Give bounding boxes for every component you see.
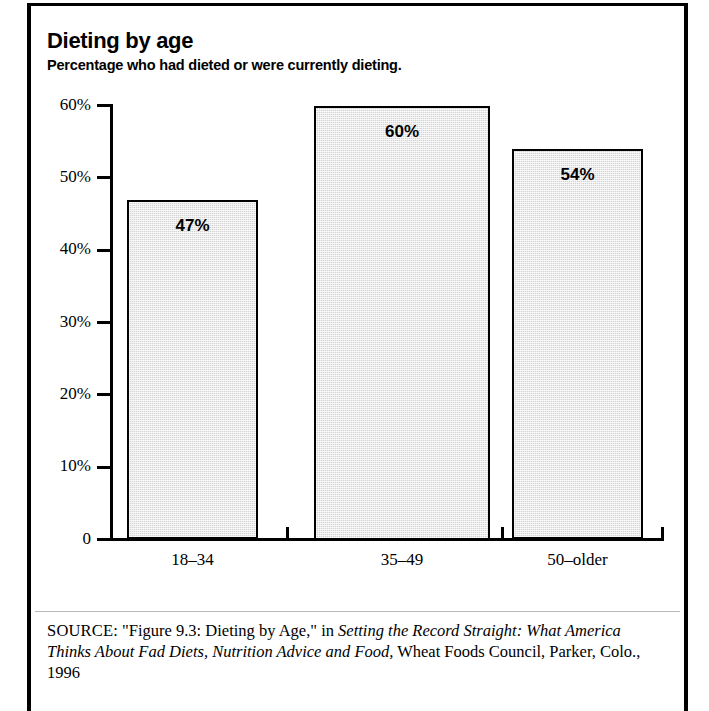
bar-value-label: 54% bbox=[512, 165, 643, 185]
source-figure-title: "Figure 9.3: Dieting by Age," bbox=[122, 621, 317, 640]
bar-value-label: 60% bbox=[314, 122, 490, 142]
y-axis-tick bbox=[97, 176, 113, 179]
y-axis-tick bbox=[97, 249, 113, 252]
y-axis-tick bbox=[97, 466, 113, 469]
y-axis-tick-label-text: 10% bbox=[33, 456, 91, 476]
plot-area: 010%20%30%40%50%60% 47%60%54% 18–3435–49… bbox=[0, 0, 709, 711]
y-axis-tick-label-text: 20% bbox=[33, 384, 91, 404]
y-axis-tick bbox=[97, 104, 113, 107]
y-axis-tick bbox=[97, 393, 113, 396]
y-axis-tick-label-text: 50% bbox=[33, 167, 91, 187]
bar-35–49 bbox=[314, 106, 490, 540]
bar-18–34 bbox=[127, 200, 258, 540]
x-axis-label-18–34: 18–34 bbox=[103, 550, 283, 570]
y-axis-tick-label-text: 60% bbox=[33, 95, 91, 115]
figure-container: Dieting by age Percentage who had dieted… bbox=[0, 0, 709, 711]
source-separator-rule bbox=[35, 611, 680, 612]
bar-value-label: 47% bbox=[127, 216, 258, 236]
source-note: SOURCE: "Figure 9.3: Dieting by Age," in… bbox=[47, 620, 662, 683]
x-axis-tick bbox=[661, 527, 664, 541]
y-axis-tick bbox=[97, 321, 113, 324]
x-axis-tick bbox=[501, 527, 504, 541]
bar-50–older bbox=[512, 149, 643, 540]
source-kicker: SOURCE bbox=[47, 621, 113, 640]
x-axis-label-35–49: 35–49 bbox=[312, 550, 492, 570]
x-axis-tick bbox=[286, 527, 289, 541]
y-axis-tick-label-text: 0 bbox=[33, 529, 91, 549]
source-separator: : bbox=[113, 621, 122, 640]
y-axis-tick-label-text: 30% bbox=[33, 312, 91, 332]
y-axis-tick-label-text: 40% bbox=[33, 239, 91, 259]
source-connector: in bbox=[317, 621, 338, 640]
y-axis-tick bbox=[97, 538, 113, 541]
x-axis-label-50–older: 50–older bbox=[488, 550, 668, 570]
